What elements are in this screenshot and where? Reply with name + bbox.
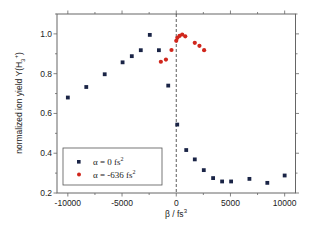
data-point-alpha-636 <box>193 41 197 45</box>
data-point-alpha-0 <box>175 123 179 127</box>
data-point-alpha-0 <box>248 177 252 181</box>
data-point-alpha-0 <box>130 54 134 58</box>
y-tick-label: 0.4 <box>40 148 52 158</box>
data-point-alpha-0 <box>84 85 88 89</box>
data-point-alpha-0 <box>139 48 143 52</box>
data-point-alpha-636 <box>183 34 187 38</box>
data-point-alpha-0 <box>157 48 161 52</box>
y-tick-label: 1.0 <box>40 29 52 39</box>
data-point-alpha-0 <box>66 96 70 100</box>
y-axis-label-end: ) <box>14 52 24 55</box>
data-point-alpha-0 <box>229 180 233 184</box>
data-point-alpha-636 <box>202 48 206 52</box>
legend-label-alpha-636: α = -636 fs2 <box>93 169 136 180</box>
data-point-alpha-0 <box>193 157 197 161</box>
legend-label-1-sup: 2 <box>133 169 136 175</box>
data-point-alpha-0 <box>121 60 125 64</box>
data-point-alpha-636 <box>159 60 163 64</box>
data-point-alpha-0 <box>148 33 152 37</box>
data-point-alpha-636 <box>197 44 201 48</box>
x-tick-label: 0 <box>174 198 179 208</box>
legend-marker-square <box>77 160 81 164</box>
x-tick-label: -10000 <box>55 198 82 208</box>
y-tick-label: 0.6 <box>40 108 52 118</box>
legend-label-1-base: α = -636 fs <box>93 170 133 180</box>
y-tick-label: 0.2 <box>40 188 52 198</box>
x-tick-label: 10000 <box>273 198 297 208</box>
data-point-alpha-0 <box>184 148 188 152</box>
legend: α = 0 fs2 α = -636 fs2 <box>63 148 162 185</box>
x-axis-label-base: β / fs <box>165 209 184 219</box>
data-point-alpha-0 <box>283 174 287 178</box>
data-point-alpha-0 <box>211 176 215 180</box>
legend-label-0-base: α = 0 fs <box>93 157 121 167</box>
data-point-alpha-0 <box>265 181 269 185</box>
x-axis-label-sup: 3 <box>184 208 188 214</box>
data-point-alpha-0 <box>220 180 224 184</box>
y-tick-label: 0.8 <box>40 69 52 79</box>
data-point-alpha-0 <box>103 72 107 76</box>
data-point-alpha-0 <box>166 84 170 88</box>
x-axis-label: β / fs3 <box>165 208 188 219</box>
x-tick-label: -5000 <box>111 198 133 208</box>
chart: -10000-500005000100000.20.40.60.81.0 α =… <box>0 0 314 232</box>
y-axis-label-sub: 3 <box>20 58 26 62</box>
y-axis-label-base: normalized ion yield Y(H <box>14 62 24 154</box>
legend-label-alpha-0: α = 0 fs2 <box>93 156 124 167</box>
data-point-alpha-0 <box>202 168 206 172</box>
y-axis-label: normalized ion yield Y(H3+) <box>13 52 26 154</box>
data-point-alpha-636 <box>169 48 173 52</box>
legend-marker-circle <box>77 173 81 177</box>
legend-label-0-sup: 2 <box>121 156 124 162</box>
x-tick-label: 5000 <box>221 198 240 208</box>
data-point-alpha-636 <box>164 57 168 61</box>
